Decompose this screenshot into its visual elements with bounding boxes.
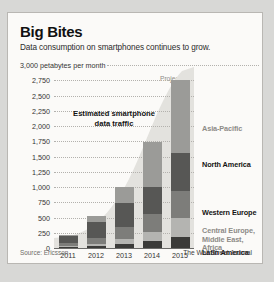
y-axis-tick-label: 2,250	[32, 106, 50, 115]
bar-column	[115, 187, 134, 248]
bar-segment	[115, 239, 134, 244]
bar-segment	[115, 244, 134, 248]
y-axis-tick-label: 2,500	[32, 91, 50, 100]
bar-segment	[143, 232, 162, 241]
y-axis-tick-label: 500	[38, 213, 50, 222]
bar-segment	[87, 244, 106, 246]
gridline	[54, 248, 194, 249]
bar-segment	[87, 222, 106, 237]
y-axis-tick-label: 2,750	[32, 76, 50, 85]
source-note: Source: Ericsson	[20, 249, 68, 256]
legend-label: Western Europe	[202, 209, 256, 218]
bar-segment	[171, 237, 190, 248]
page-title: Big Bites	[20, 23, 82, 40]
plot-area: 02505007501,0001,2501,5001,7502,0002,250…	[54, 65, 194, 248]
bar-column	[171, 80, 190, 248]
bar-segment	[87, 216, 106, 222]
chart-card: Big Bites Data consumption on smartphone…	[7, 12, 263, 264]
y-axis-tick-label: 1,250	[32, 167, 50, 176]
bar-segment	[59, 236, 78, 243]
bar-segment	[59, 247, 78, 248]
legend-label: North America	[202, 161, 251, 170]
bar-segment	[115, 203, 134, 227]
bar-column	[59, 235, 78, 248]
y-axis-tick-label: 1,000	[32, 183, 50, 192]
bar-segment	[143, 214, 162, 232]
bar-segment	[115, 227, 134, 239]
bar-segment	[143, 187, 162, 214]
bar-column	[143, 142, 162, 248]
y-axis-tick-label: 250	[38, 228, 50, 237]
bar-column	[87, 216, 106, 248]
estimated-traffic-label: Estimated smartphone data traffic	[68, 109, 160, 130]
bar-segment	[143, 241, 162, 248]
y-axis-tick-label: 2,000	[32, 122, 50, 131]
y-axis-tick-label: 1,750	[32, 137, 50, 146]
bar-segment	[171, 153, 190, 191]
bar-segment	[87, 238, 106, 244]
y-axis-tick-label: 750	[38, 198, 50, 207]
bar-segment	[171, 80, 190, 153]
bar-segment	[59, 246, 78, 247]
bar-segment	[59, 243, 78, 246]
legend-label: Asia-Pacific	[202, 125, 242, 134]
bar-segment	[171, 218, 190, 238]
bar-segment	[171, 191, 190, 217]
chart-subtitle: Data consumption on smartphones continue…	[20, 43, 210, 52]
y-axis-tick-label: 1,500	[32, 152, 50, 161]
bar-segment	[115, 187, 134, 203]
bar-segment	[87, 246, 106, 248]
publication-credit: The Wall Street Journal	[183, 249, 252, 256]
bar-segment	[143, 142, 162, 187]
bar-segment	[59, 235, 78, 237]
